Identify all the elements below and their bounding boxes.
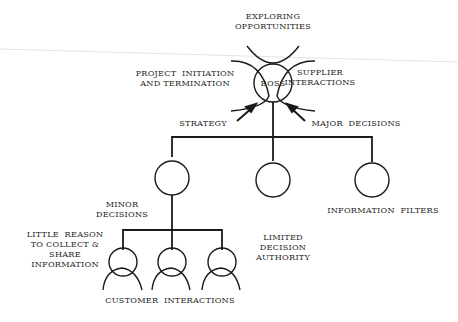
- customer-interactions-label: CUSTOMER INTERACTIONS: [100, 295, 240, 305]
- worker-node-2: [158, 248, 186, 276]
- customer-arc-2: [152, 268, 190, 290]
- exploring-opportunities-label: EXPLORING OPPORTUNITIES: [226, 11, 320, 31]
- scan-line: [0, 49, 458, 62]
- org-hierarchy-diagram: EXPLORING OPPORTUNITIES PROJECT INITIATI…: [0, 0, 458, 322]
- information-filters-label: INFORMATION FILTERS: [322, 205, 444, 215]
- middle-manager-node-2: [256, 163, 290, 197]
- middle-manager-node-1: [155, 161, 189, 195]
- connector-middle-bar: [172, 137, 372, 162]
- strategy-label: STRATEGY: [170, 118, 236, 128]
- minor-decisions-label: MINOR DECISIONS: [94, 199, 150, 219]
- customer-arc-1: [103, 268, 142, 290]
- customer-arc-3: [202, 268, 240, 290]
- major-decisions-arrowhead-icon: [287, 104, 297, 112]
- middle-manager-node-3: [355, 163, 389, 197]
- project-initiation-label: PROJECT INITIATION AND TERMINATION: [133, 68, 237, 88]
- exploring-arc: [247, 46, 299, 63]
- limited-decision-authority-label: LIMITED DECISION AUTHORITY: [250, 232, 316, 262]
- worker-node-1: [109, 248, 137, 276]
- little-reason-label: LITTLE REASON TO COLLECT & SHARE INFORMA…: [22, 229, 108, 269]
- worker-node-3: [208, 248, 236, 276]
- boss-label: BOSS: [252, 78, 294, 88]
- major-decisions-label: MAJOR DECISIONS: [306, 118, 406, 128]
- diagram-canvas: [0, 0, 458, 322]
